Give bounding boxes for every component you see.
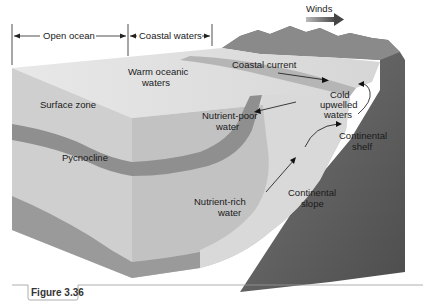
label-warm-oceanic: Warm oceanic	[128, 66, 189, 77]
label-continental-slope: Continental	[288, 187, 336, 198]
label-nutrient-rich: Nutrient-rich	[194, 196, 246, 207]
figure-number: Figure 3.36	[31, 287, 84, 298]
label-warm-oceanic-2: waters	[141, 77, 170, 88]
label-nutrient-rich-2: water	[217, 207, 241, 218]
label-continental-shelf: Continental	[339, 130, 387, 141]
figure-caption: Figure 3.36	[12, 285, 423, 300]
coastal-upwelling-diagram: Open ocean Coastal waters Winds Warm oce…	[0, 0, 435, 303]
label-nutrient-poor: Nutrient-poor	[202, 110, 257, 121]
label-nutrient-poor-2: water	[215, 121, 239, 132]
label-pycnocline: Pycnocline	[62, 152, 108, 163]
label-upwelled-waters: waters	[323, 109, 352, 120]
wind-arrow-icon	[306, 13, 344, 26]
label-winds: Winds	[306, 3, 333, 14]
label-coastal-waters: Coastal waters	[139, 30, 202, 41]
label-continental-shelf-2: shelf	[352, 141, 372, 152]
label-continental-slope-2: slope	[301, 198, 324, 209]
label-surface-zone: Surface zone	[40, 99, 96, 110]
label-open-ocean: Open ocean	[43, 30, 95, 41]
label-coastal-current: Coastal current	[232, 59, 297, 70]
